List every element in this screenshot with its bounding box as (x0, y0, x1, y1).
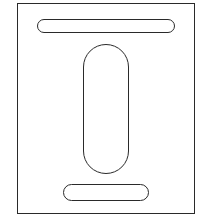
bottom-horizontal-slot (63, 184, 149, 201)
center-vertical-slot (83, 44, 129, 174)
top-horizontal-slot (37, 19, 175, 33)
diagram-canvas (0, 0, 203, 221)
